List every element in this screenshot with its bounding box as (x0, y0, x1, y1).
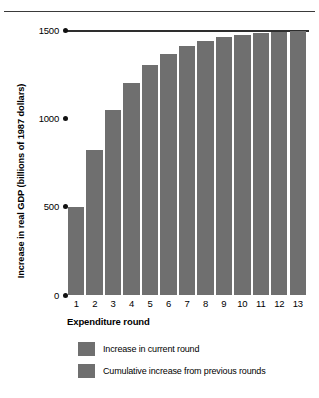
bar-round-9 (216, 37, 232, 295)
bar-round-6 (160, 54, 176, 295)
y-tick-label: 500 (27, 201, 59, 212)
y-tick-0: 0 (27, 289, 68, 301)
bar-round-11 (253, 33, 269, 295)
bar-round-3 (105, 110, 121, 296)
x-tick-label-7: 7 (178, 298, 196, 309)
x-tick-label-9: 9 (215, 298, 233, 309)
bar-round-13 (290, 31, 306, 295)
legend-label: Increase in current round (103, 344, 199, 354)
x-tick-label-13: 13 (289, 298, 307, 309)
y-tick-500: 500 (27, 201, 68, 213)
x-tick-label-4: 4 (122, 298, 140, 309)
x-tick-label-12: 12 (270, 298, 288, 309)
figure-panel: Increase in real GDP (billions of 1987 d… (0, 0, 319, 398)
chart-legend: Increase in current roundCumulative incr… (78, 341, 266, 385)
bar-round-1 (68, 207, 84, 295)
legend-item-1: Increase in current round (78, 341, 266, 357)
top-page-artifact (92, 0, 132, 5)
x-axis-title: Expenditure round (67, 316, 307, 327)
bar-round-2 (86, 150, 102, 295)
top-divider-rule (4, 11, 315, 12)
legend-label: Cumulative increase from previous rounds (103, 366, 266, 376)
legend-swatch (78, 342, 95, 356)
x-axis-ticks: 12345678910111213 (67, 298, 307, 312)
legend-item-2: Cumulative increase from previous rounds (78, 363, 266, 379)
x-tick-label-1: 1 (67, 298, 85, 309)
x-tick-label-8: 8 (196, 298, 214, 309)
legend-swatch (78, 364, 95, 378)
bar-round-12 (271, 32, 287, 295)
y-tick-label: 1500 (27, 25, 59, 36)
x-tick-label-11: 11 (252, 298, 270, 309)
x-tick-label-3: 3 (104, 298, 122, 309)
x-tick-label-2: 2 (85, 298, 103, 309)
x-tick-label-6: 6 (159, 298, 177, 309)
bar-round-10 (234, 35, 250, 295)
x-tick-label-10: 10 (233, 298, 251, 309)
y-tick-1500: 1500 (27, 24, 68, 36)
bar-round-7 (179, 46, 195, 295)
bar-round-5 (142, 65, 158, 295)
bar-round-4 (123, 83, 139, 295)
y-tick-label: 1000 (27, 113, 59, 124)
bar-round-8 (197, 41, 213, 295)
y-tick-1000: 1000 (27, 112, 68, 124)
y-axis-title: Increase in real GDP (billions of 1987 d… (16, 56, 26, 306)
x-tick-label-5: 5 (141, 298, 159, 309)
y-tick-label: 0 (27, 290, 59, 301)
plot-area (67, 30, 307, 295)
